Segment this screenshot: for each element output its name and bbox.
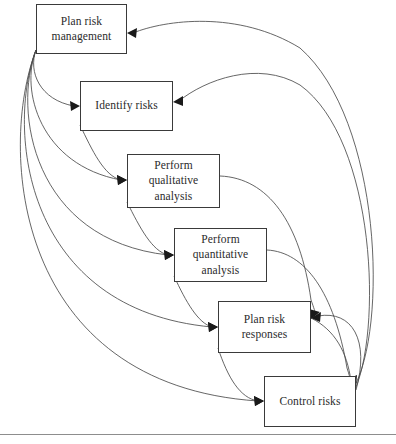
node-perform-quantitative-analysis[interactable]: Perform quantitative analysis bbox=[174, 228, 267, 282]
node-label: Plan risk responses bbox=[238, 312, 292, 342]
node-label: Perform qualitative analysis bbox=[145, 158, 203, 204]
node-label: Identify risks bbox=[91, 98, 161, 113]
edge-responses-to-control-right bbox=[311, 318, 351, 381]
risk-management-flow-diagram: Plan risk management Identify risks Perf… bbox=[0, 0, 396, 444]
footer-divider bbox=[0, 434, 396, 435]
node-control-risks[interactable]: Control risks bbox=[264, 376, 356, 427]
node-label: Control risks bbox=[275, 394, 344, 409]
node-plan-risk-management[interactable]: Plan risk management bbox=[36, 4, 127, 54]
node-label: Perform quantitative analysis bbox=[189, 232, 253, 278]
node-perform-qualitative-analysis[interactable]: Perform qualitative analysis bbox=[127, 154, 220, 208]
node-identify-risks[interactable]: Identify risks bbox=[80, 81, 173, 131]
edge-qualitative-to-quantitative bbox=[127, 202, 174, 260]
node-label: Plan risk management bbox=[48, 14, 116, 44]
node-plan-risk-responses[interactable]: Plan risk responses bbox=[218, 301, 311, 353]
edge-quantitative-to-responses bbox=[174, 276, 218, 332]
edge-plan-to-identify bbox=[34, 50, 80, 111]
